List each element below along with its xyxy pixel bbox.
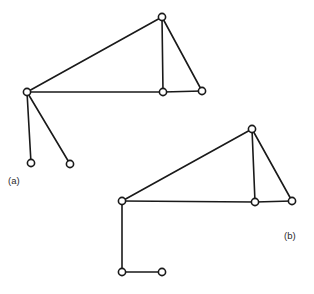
graph-node-right-leaf-node[interactable] [66, 160, 73, 167]
graph-edge-middle-to-right [255, 201, 292, 202]
graph-node-apex-node[interactable] [248, 125, 255, 132]
figure-label-b: (b) [284, 230, 296, 241]
figure-label-a: (a) [8, 175, 20, 186]
graph-edge-apex-to-middle [162, 17, 163, 92]
graph-edge-middle-to-right [163, 91, 202, 92]
graph-node-apex-node[interactable] [158, 13, 165, 20]
graph-node-left-leaf-node[interactable] [27, 159, 34, 166]
graph-node-hub-node[interactable] [118, 197, 125, 204]
graph-node-middle-node[interactable] [159, 88, 166, 95]
graph-node-hub-node[interactable] [23, 88, 30, 95]
graph-figure-canvas: (a)(b) [0, 0, 314, 294]
graph-node-right-node[interactable] [288, 197, 295, 204]
graph-edge-hub-to-middle [122, 201, 255, 202]
figure-background [0, 0, 314, 294]
graph-node-right-node[interactable] [198, 87, 205, 94]
graph-node-middle-node[interactable] [251, 198, 258, 205]
graph-node-right-leaf-node[interactable] [158, 268, 165, 275]
graph-node-left-leaf-node[interactable] [118, 268, 125, 275]
